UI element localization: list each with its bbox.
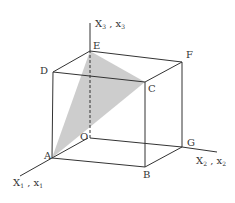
edge-og <box>90 138 182 147</box>
edge-fc <box>145 62 182 82</box>
vertex-label-a: A <box>43 150 52 161</box>
vertex-label-f: F <box>186 49 193 60</box>
vertex-label-d: D <box>40 65 48 76</box>
edge-ad <box>52 72 53 158</box>
vertex-label-b: B <box>143 169 150 180</box>
axis-label-x3: X3 , x3 <box>95 18 125 30</box>
vertex-label-e: E <box>93 40 100 51</box>
edge-bg <box>145 147 182 167</box>
vertex-label-g: G <box>187 137 195 148</box>
cube-diagram: E D F C O A B G X3 , x3 X1 , x1 X2 , x2 <box>0 0 235 203</box>
vertex-label-c: C <box>148 83 156 94</box>
vertex-label-o: O <box>80 131 88 142</box>
axis-label-x1: X1 , x1 <box>13 177 43 189</box>
edge-ab <box>52 158 145 167</box>
axis-label-x2: X2 , x2 <box>196 155 226 167</box>
